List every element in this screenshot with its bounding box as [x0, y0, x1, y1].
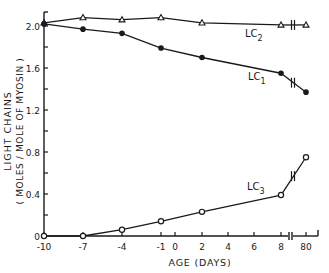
data-point	[199, 209, 204, 214]
data-point	[278, 70, 284, 76]
x-tick-label: 4	[225, 242, 231, 252]
data-point	[119, 31, 125, 37]
x-axis-label: AGE (DAYS)	[169, 257, 232, 268]
data-point	[119, 17, 125, 22]
data-point	[303, 22, 309, 27]
x-tick-labels: -10-7-4-10246880	[37, 242, 312, 252]
data-point	[80, 233, 85, 238]
label-lc3: LC3	[247, 181, 265, 196]
data-point	[158, 15, 164, 20]
x-tick-label: 0	[172, 242, 178, 252]
x-tick-label: -7	[79, 242, 88, 252]
data-point	[303, 89, 309, 95]
x-tick-label: 8	[278, 242, 284, 252]
y-tick-label: 1.2	[26, 106, 40, 116]
y-tick-label: 2.0	[26, 22, 41, 32]
label-lc2: LC2	[245, 28, 263, 43]
label-lc1: LC1	[248, 71, 266, 86]
y-tick-labels: 00.40.81.21.62.0	[26, 22, 41, 242]
data-point	[158, 219, 163, 224]
series-lc1	[41, 21, 309, 95]
y-tick-label: 1.6	[26, 64, 41, 74]
tick-marks	[44, 26, 306, 236]
x-tick-label: -4	[118, 242, 127, 252]
data-point	[278, 22, 284, 27]
y-tick-label: 0.4	[26, 190, 41, 200]
data-point	[158, 45, 164, 51]
y-axis-label-line1: LIGHT CHAINS	[2, 91, 13, 171]
light-chain-chart: 00.40.81.21.62.0 -10-7-4-10246880 LC2LC1…	[0, 0, 329, 273]
x-tick-label: 2	[199, 242, 205, 252]
data-point	[80, 26, 86, 32]
axes	[44, 12, 318, 240]
data-point	[199, 20, 205, 25]
series-lines	[41, 15, 309, 239]
data-point	[41, 21, 47, 27]
data-point	[303, 155, 308, 160]
x-tick-label: 6	[251, 242, 257, 252]
data-point	[199, 55, 205, 61]
data-point	[278, 192, 283, 197]
data-point	[119, 227, 124, 232]
x-tick-label: -1	[157, 242, 166, 252]
data-point	[41, 233, 46, 238]
series-lc3	[41, 155, 308, 239]
x-tick-label: 80	[300, 242, 312, 252]
data-point	[80, 15, 86, 20]
y-axis-label-line2: ( MOLES / MOLE OF MYOSIN )	[15, 58, 25, 205]
series-labels: LC2LC1LC3	[245, 28, 266, 196]
y-tick-label: 0	[34, 232, 40, 242]
x-tick-label: -10	[37, 242, 52, 252]
y-tick-label: 0.8	[26, 148, 41, 158]
